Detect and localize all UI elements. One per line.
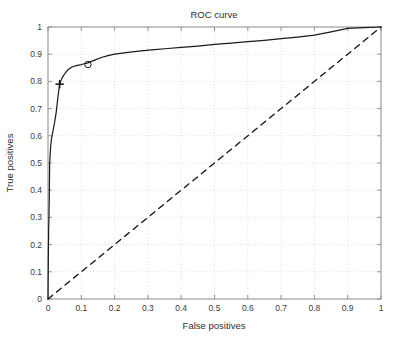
y-tick-label: 0.9 bbox=[30, 49, 42, 59]
roc-curve-figure: 00.10.20.30.40.50.60.70.80.9100.10.20.30… bbox=[0, 0, 399, 343]
x-tick-label: 1 bbox=[379, 303, 384, 313]
chart-title: ROC curve bbox=[191, 9, 238, 20]
y-tick-label: 0.1 bbox=[30, 267, 42, 277]
x-tick-label: 0.1 bbox=[75, 303, 87, 313]
x-tick-label: 0.8 bbox=[308, 303, 320, 313]
y-tick-label: 0.7 bbox=[30, 104, 42, 114]
tick-labels: 00.10.20.30.40.50.60.70.80.9100.10.20.30… bbox=[30, 22, 383, 313]
x-tick-label: 0.7 bbox=[275, 303, 287, 313]
x-tick-label: 0.5 bbox=[209, 303, 221, 313]
y-tick-label: 0 bbox=[37, 294, 42, 304]
y-tick-label: 0.6 bbox=[30, 131, 42, 141]
y-tick-label: 0.2 bbox=[30, 240, 42, 250]
y-tick-label: 1 bbox=[37, 22, 42, 32]
chart-canvas: 00.10.20.30.40.50.60.70.80.9100.10.20.30… bbox=[0, 0, 399, 343]
x-tick-label: 0.2 bbox=[109, 303, 121, 313]
y-tick-label: 0.3 bbox=[30, 212, 42, 222]
y-axis-title: True positives bbox=[4, 133, 15, 192]
x-tick-label: 0.3 bbox=[142, 303, 154, 313]
x-tick-label: 0.4 bbox=[175, 303, 187, 313]
y-tick-label: 0.5 bbox=[30, 158, 42, 168]
x-tick-label: 0 bbox=[46, 303, 51, 313]
x-axis-title: False positives bbox=[183, 320, 246, 331]
annotation-markers bbox=[55, 61, 91, 88]
x-tick-label: 0.9 bbox=[342, 303, 354, 313]
x-tick-label: 0.6 bbox=[242, 303, 254, 313]
y-tick-label: 0.8 bbox=[30, 76, 42, 86]
y-tick-label: 0.4 bbox=[30, 185, 42, 195]
